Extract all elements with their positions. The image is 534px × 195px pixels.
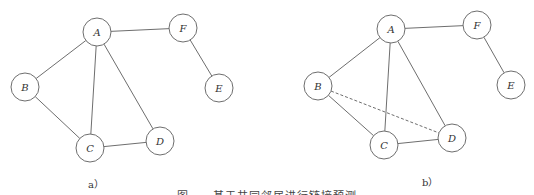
node-label: A bbox=[386, 24, 394, 35]
panel-a-graph: AFBECD bbox=[11, 14, 233, 162]
edge-C-D bbox=[398, 139, 438, 143]
edge-A-F bbox=[111, 29, 169, 32]
edge-B-C bbox=[328, 95, 373, 135]
node-A: A bbox=[377, 15, 405, 43]
edge-B-C bbox=[35, 97, 80, 139]
panel-b-graph: AFBECD bbox=[304, 11, 525, 159]
graph-diagram: AFBECD AFBECD bbox=[0, 0, 534, 195]
node-B: B bbox=[11, 73, 39, 101]
node-label: B bbox=[313, 81, 321, 92]
edge-A-B bbox=[329, 38, 380, 78]
node-A: A bbox=[83, 18, 111, 46]
node-F: F bbox=[169, 14, 197, 42]
node-label: E bbox=[214, 83, 223, 94]
node-label: C bbox=[86, 143, 94, 154]
node-E: E bbox=[497, 71, 525, 99]
node-label: A bbox=[92, 27, 100, 38]
edge-A-B bbox=[36, 40, 86, 78]
edge-F-E bbox=[484, 37, 504, 73]
node-label: B bbox=[20, 82, 28, 93]
edge-A-D bbox=[104, 44, 153, 129]
node-B: B bbox=[304, 72, 332, 100]
edge-C-D bbox=[104, 142, 146, 146]
node-label: C bbox=[380, 140, 388, 151]
node-D: D bbox=[146, 127, 174, 155]
node-C: C bbox=[76, 134, 104, 162]
node-E: E bbox=[205, 74, 233, 102]
node-label: F bbox=[179, 23, 188, 34]
node-label: D bbox=[447, 133, 456, 144]
edge-A-C bbox=[385, 43, 390, 131]
edge-A-D bbox=[398, 41, 445, 126]
edge-A-F bbox=[405, 26, 463, 29]
node-F: F bbox=[463, 11, 491, 39]
figure-caption: 图 基于共同邻居进行链接预测 bbox=[0, 187, 534, 195]
edge-A-C bbox=[91, 46, 96, 134]
node-label: E bbox=[506, 80, 515, 91]
node-label: F bbox=[473, 20, 482, 31]
edge-F-E bbox=[190, 40, 212, 76]
node-label: D bbox=[155, 136, 164, 147]
node-C: C bbox=[370, 131, 398, 159]
node-D: D bbox=[438, 124, 466, 152]
